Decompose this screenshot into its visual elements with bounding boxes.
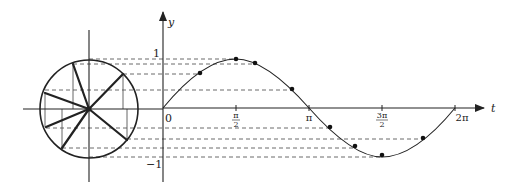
curve-point [353, 144, 358, 149]
curve-point [328, 125, 333, 130]
tick-label-pi: π [306, 112, 313, 123]
radius [89, 109, 127, 140]
curve-point [421, 136, 426, 141]
circle-center-dot [87, 107, 92, 112]
radii [45, 64, 127, 148]
y-axis-label: y [167, 16, 175, 29]
curve-point [290, 87, 295, 92]
tick-label-half-pi-num: π [233, 111, 238, 120]
radius [45, 93, 89, 109]
curve-point [198, 71, 203, 76]
curve-point [234, 57, 239, 62]
sine-unit-circle-diagram: y t 0 1 −1 π 2 π 3π 2 2π [0, 0, 516, 190]
radius [89, 74, 123, 109]
t-axis-label: t [491, 102, 496, 115]
tick-label-two-pi: 2π [456, 112, 469, 123]
curve-point [253, 61, 258, 66]
curve-points [198, 57, 426, 158]
y-min-label: −1 [146, 158, 162, 171]
origin-label: 0 [165, 112, 172, 125]
drop-lines [45, 64, 127, 148]
tick-label-three-half-pi-den: 2 [379, 120, 384, 129]
tick-label-half-pi-den: 2 [233, 120, 238, 129]
y-max-label: 1 [153, 47, 160, 60]
curve-point [380, 153, 385, 158]
tick-label-three-half-pi-num: 3π [377, 111, 387, 120]
radius [73, 64, 89, 109]
